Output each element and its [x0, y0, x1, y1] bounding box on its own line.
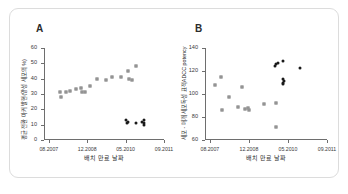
data-point: [75, 88, 78, 91]
x-tick-label: 05.2010: [116, 147, 135, 152]
data-point: [282, 59, 285, 62]
y-tick-mark: 140: [202, 48, 205, 49]
y-tick-mark: 20: [41, 109, 44, 110]
data-point: [236, 105, 239, 108]
panel-b-y-axis: [205, 48, 206, 140]
data-point: [247, 109, 250, 112]
data-point: [59, 96, 62, 99]
data-point: [88, 85, 91, 88]
x-tick-label: 05.2010: [279, 147, 298, 152]
y-tick-label: 40: [31, 76, 37, 82]
data-point: [95, 77, 98, 80]
x-tick-label: 08.2007: [39, 147, 58, 152]
panel-b-letter: B: [195, 23, 202, 34]
data-point: [274, 126, 277, 129]
x-tick-mark: 05.2010: [288, 140, 289, 143]
data-point: [299, 66, 302, 69]
panel-a-x-axis-title: 배치 만료 날짜: [44, 155, 164, 161]
figure-card: A 0102030405060 08.200712.200805.201009.…: [9, 8, 339, 178]
y-tick-mark: 10: [41, 125, 44, 126]
y-tick-label: 140: [189, 45, 198, 51]
y-tick-mark: 0: [41, 140, 44, 141]
data-point: [262, 103, 265, 106]
panel-b-x-axis: [205, 139, 327, 140]
panel-b-x-axis-title: 배치 만료 날짜: [205, 155, 327, 161]
y-tick-mark: 30: [41, 94, 44, 95]
data-point: [119, 76, 122, 79]
data-point: [69, 89, 72, 92]
figure-screenshot: A 0102030405060 08.200712.200805.201009.…: [0, 0, 348, 194]
y-tick-mark: 120: [202, 71, 205, 72]
x-tick-label: 12.2008: [240, 147, 259, 152]
y-tick-label: 20: [31, 107, 37, 113]
y-tick-label: 80: [192, 114, 198, 120]
y-tick-label: 30: [31, 91, 37, 97]
data-point: [64, 91, 67, 94]
data-point: [83, 91, 86, 94]
panel-a-y-axis-title: 평균 전환 마커 발현(양성 세포의 %): [22, 59, 27, 140]
data-point: [58, 91, 61, 94]
panel-a-x-axis: [44, 139, 164, 140]
panel-b-plot-area: 6080100120140 08.200712.200805.201009.20…: [205, 48, 327, 140]
y-tick-label: 60: [31, 45, 37, 51]
y-tick-mark: 60: [202, 140, 205, 141]
panel-b-y-axis-title: 세포 - 매개 세포독성 표적ADCC potency: [182, 47, 187, 140]
y-tick-mark: 100: [202, 94, 205, 95]
x-tick-mark: 05.2010: [126, 140, 127, 143]
data-point: [80, 86, 83, 89]
data-point: [127, 120, 130, 123]
data-point: [127, 70, 130, 73]
y-tick-mark: 40: [41, 79, 44, 80]
y-tick-label: 120: [189, 68, 198, 74]
y-tick-label: 100: [189, 91, 198, 97]
x-tick-label: 08.2007: [200, 147, 219, 152]
panel-a-letter: A: [36, 23, 43, 34]
data-point: [219, 75, 222, 78]
data-point: [221, 109, 224, 112]
panel-b: B 6080100120140 08.200712.200805.201009.…: [173, 9, 338, 179]
data-point: [135, 65, 138, 68]
data-point: [111, 76, 114, 79]
x-tick-label: 09.2011: [155, 147, 173, 152]
data-point: [283, 80, 286, 83]
y-tick-mark: 50: [41, 63, 44, 64]
x-tick-mark: 08.2007: [210, 140, 211, 143]
data-point: [142, 119, 145, 122]
panel-a: A 0102030405060 08.200712.200805.201009.…: [10, 9, 175, 179]
data-point: [240, 86, 243, 89]
data-point: [105, 79, 108, 82]
x-tick-mark: 09.2011: [327, 140, 328, 143]
data-point: [130, 79, 133, 82]
y-tick-label: 0: [34, 137, 37, 143]
data-point: [135, 122, 138, 125]
data-point: [213, 83, 216, 86]
y-tick-label: 60: [192, 137, 198, 143]
y-tick-mark: 60: [41, 48, 44, 49]
x-tick-mark: 09.2011: [164, 140, 165, 143]
x-tick-label: 09.2011: [318, 147, 336, 152]
data-point: [228, 96, 231, 99]
data-point: [142, 123, 145, 126]
data-point: [277, 61, 280, 64]
panel-a-plot-area: 0102030405060 08.200712.200805.201009.20…: [44, 48, 164, 140]
x-tick-mark: 08.2007: [49, 140, 50, 143]
x-tick-mark: 12.2008: [249, 140, 250, 143]
x-tick-label: 12.2008: [78, 147, 97, 152]
y-tick-label: 50: [31, 61, 37, 67]
y-tick-label: 10: [31, 122, 37, 128]
data-point: [274, 102, 277, 105]
panel-a-y-axis: [44, 48, 45, 140]
y-tick-mark: 80: [202, 117, 205, 118]
x-tick-mark: 12.2008: [87, 140, 88, 143]
